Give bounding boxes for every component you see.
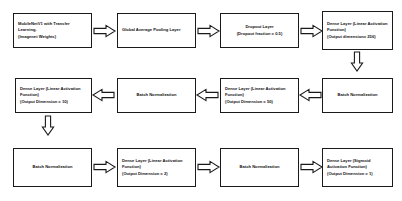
node-base-model[interactable]: MobileNetV1 with Transfer Learning. (Ima… [13, 13, 92, 48]
arrow-dense-10-to-batch-norm-3 [42, 116, 54, 136]
node-batch-norm-3[interactable]: Batch Normalization [13, 148, 92, 187]
arrow-dropout-to-dense-256 [301, 25, 323, 37]
node-batch-norm-2[interactable]: Batch Normalization [117, 78, 196, 113]
node-dense-1-sigmoid[interactable]: Dense Layer (Sigmoid Activation Function… [322, 148, 393, 187]
node-batch-norm-4-label: Batch Normalization [225, 164, 294, 170]
node-global-average-pooling[interactable]: Global Average Pooling Layer [117, 13, 196, 48]
node-global-average-pooling-label: Global Average Pooling Layer [122, 27, 191, 33]
node-dense-2[interactable]: Dense Layer (Linear Activation Function)… [117, 148, 196, 187]
arrow-batch-norm-2-to-dense-10 [93, 89, 115, 101]
flowchart-canvas: MobileNetV1 with Transfer Learning. (Ima… [0, 0, 402, 201]
node-dense-50-label: Dense Layer (Linear Activation Function)… [225, 86, 294, 105]
node-dense-256-label: Dense Layer (Linear Activation Function)… [327, 21, 388, 40]
arrow-global-average-pooling-to-dropout [198, 25, 220, 37]
node-batch-norm-1-label: Batch Normalization [327, 92, 388, 98]
node-dense-10-label: Dense Layer (Linear Activation Function)… [20, 86, 87, 105]
node-base-model-label: MobileNetV1 with Transfer Learning. (Ima… [18, 21, 87, 40]
arrow-dense-2-to-batch-norm-4 [198, 161, 220, 173]
node-batch-norm-3-label: Batch Normalization [18, 164, 87, 170]
arrow-batch-norm-4-to-dense-1-sigmoid [301, 161, 323, 173]
arrow-base-model-to-global-average-pooling [94, 25, 116, 37]
arrow-dense-256-to-batch-norm-1 [351, 52, 363, 72]
arrow-batch-norm-1-to-dense-50 [300, 89, 322, 101]
arrow-dense-50-to-batch-norm-2 [197, 89, 219, 101]
node-dense-1-sigmoid-label: Dense Layer (Sigmoid Activation Function… [327, 158, 388, 177]
node-dense-256[interactable]: Dense Layer (Linear Activation Function)… [322, 11, 393, 50]
node-dense-2-label: Dense Layer (Linear Activation Function)… [122, 158, 191, 177]
node-batch-norm-2-label: Batch Normalization [122, 92, 191, 98]
node-dense-10[interactable]: Dense Layer (Linear Activation Function)… [15, 78, 92, 113]
node-batch-norm-1[interactable]: Batch Normalization [322, 78, 393, 113]
arrow-batch-norm-3-to-dense-2 [94, 161, 116, 173]
node-dropout[interactable]: Dropout Layer (Dropout fraction = 0.5) [220, 13, 299, 48]
node-dropout-label: Dropout Layer (Dropout fraction = 0.5) [225, 24, 294, 36]
node-dense-50[interactable]: Dense Layer (Linear Activation Function)… [220, 78, 299, 113]
node-batch-norm-4[interactable]: Batch Normalization [220, 148, 299, 187]
